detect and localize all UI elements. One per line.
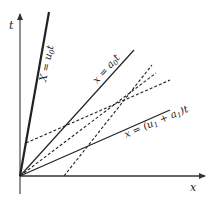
line-labels: X = u0t x = a0t x = (u1 + a1)t [37,43,191,141]
line-u0 [20,12,49,176]
solid-lines [20,12,170,176]
characteristics-diagram: t x X = u0t x = a0t x = (u1 + a1)t [0,0,216,201]
label-a0: x = a0t [90,51,124,86]
label-u0: X = u0t [37,43,58,84]
label-u1a1: x = (u1 + a1)t [122,103,191,142]
t-axis-label: t [9,19,14,32]
x-axis-label: x [190,181,197,194]
axes: t x [9,14,205,194]
line-a0 [20,50,134,176]
